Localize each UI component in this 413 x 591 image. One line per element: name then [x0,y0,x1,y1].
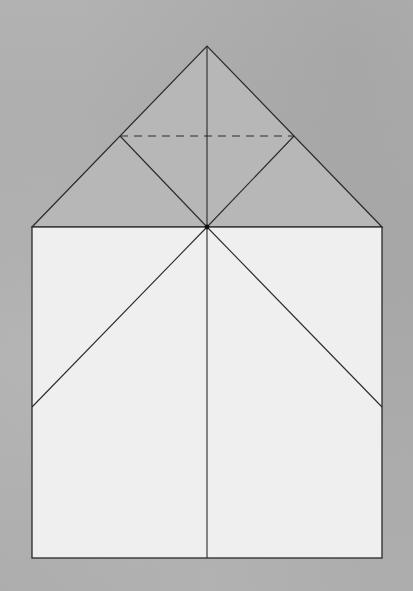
fold-diagram [0,0,413,591]
center-dot-marker [205,225,210,230]
diagram-canvas [0,0,413,591]
